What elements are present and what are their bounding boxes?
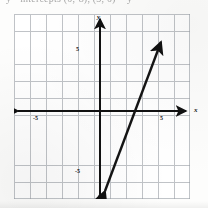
tick-label-y-negative: -5 bbox=[75, 168, 80, 174]
plot-area bbox=[14, 14, 190, 199]
tick-label-y-positive: 5 bbox=[76, 46, 79, 52]
axes-and-line-layer bbox=[14, 14, 190, 199]
tick-label-x-negative: -5 bbox=[33, 115, 38, 121]
tick-label-x-positive: 5 bbox=[160, 115, 163, 121]
coordinate-graph-figure: 5 -5 -5 5 x y bbox=[0, 6, 208, 206]
problem-text: y - intercepts (0,-8), (3, 0) = y bbox=[6, 0, 132, 4]
axis-label-y: y bbox=[97, 14, 100, 21]
worksheet-page: y - intercepts (0,-8), (3, 0) = y bbox=[0, 0, 208, 208]
axis-label-x: x bbox=[194, 107, 198, 114]
plotted-line bbox=[105, 42, 161, 191]
